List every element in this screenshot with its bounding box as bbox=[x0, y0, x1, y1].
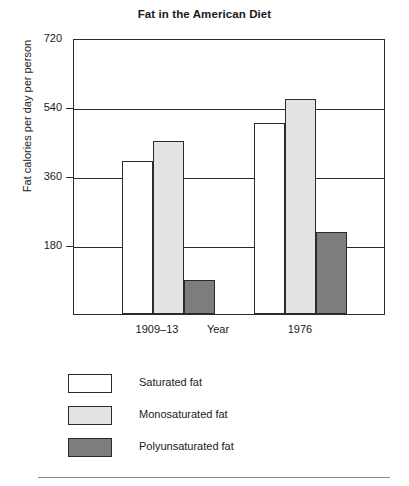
x-tick-label-1976: 1976 bbox=[260, 323, 340, 335]
bar-monosaturated-1976 bbox=[285, 99, 316, 314]
legend-swatch-polyunsaturated bbox=[68, 438, 112, 457]
y-tick-label-540: 540 bbox=[22, 102, 62, 113]
y-tick-mark-180 bbox=[66, 246, 73, 247]
y-axis-title: Fat calories per day per person bbox=[21, 21, 33, 211]
legend-label-polyunsaturated: Polyunsaturated fat bbox=[139, 440, 234, 452]
x-tick-label-1909-13: 1909–13 bbox=[117, 323, 197, 335]
gridline-360 bbox=[74, 178, 384, 179]
y-tick-mark-360 bbox=[66, 177, 73, 178]
bar-monosaturated-1909-13 bbox=[153, 141, 184, 314]
legend-label-monosaturated: Monosaturated fat bbox=[139, 408, 228, 420]
y-tick-mark-540 bbox=[66, 108, 73, 109]
chart-legend: Saturated fat Monosaturated fat Polyunsa… bbox=[68, 372, 368, 468]
x-axis-title: Year bbox=[188, 323, 248, 335]
y-tick-label-360: 360 bbox=[22, 171, 62, 182]
bar-polyunsaturated-1909-13 bbox=[184, 280, 215, 314]
legend-item-monosaturated: Monosaturated fat bbox=[68, 404, 368, 436]
y-tick-label-720: 720 bbox=[22, 33, 62, 44]
legend-swatch-monosaturated bbox=[68, 406, 112, 425]
legend-swatch-saturated bbox=[68, 374, 112, 393]
plot-area bbox=[73, 39, 385, 315]
bar-saturated-1909-13 bbox=[122, 161, 153, 314]
bar-saturated-1976 bbox=[254, 123, 285, 314]
gridline-540 bbox=[74, 109, 384, 110]
legend-item-polyunsaturated: Polyunsaturated fat bbox=[68, 436, 368, 468]
legend-item-saturated: Saturated fat bbox=[68, 372, 368, 404]
legend-label-saturated: Saturated fat bbox=[139, 376, 202, 388]
y-tick-label-180: 180 bbox=[22, 240, 62, 251]
bar-polyunsaturated-1976 bbox=[316, 232, 347, 314]
footer-divider bbox=[38, 477, 390, 478]
chart-title: Fat in the American Diet bbox=[0, 8, 409, 20]
